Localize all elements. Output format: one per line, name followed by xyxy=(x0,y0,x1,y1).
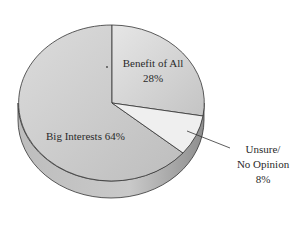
label-unsure: Unsure/ No Opinion 8% xyxy=(230,142,296,187)
label-unsure-line1: Unsure/ xyxy=(230,142,296,157)
label-unsure-line2: No Opinion xyxy=(230,157,296,172)
label-benefit-value: 28% xyxy=(116,71,190,86)
label-benefit: Benefit of All 28% xyxy=(116,56,190,86)
label-big-interests: Big Interests 64% xyxy=(46,129,125,144)
label-unsure-value: 8% xyxy=(230,172,296,187)
label-benefit-name: Benefit of All xyxy=(116,56,190,71)
dot-mark xyxy=(106,66,108,68)
